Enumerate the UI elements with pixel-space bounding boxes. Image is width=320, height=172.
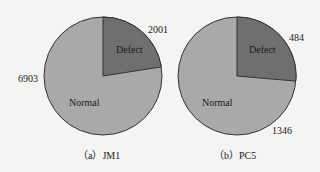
pc5-caption: （b）PC5: [214, 151, 256, 161]
jm1-defect-label: Defect: [116, 45, 143, 55]
pc5-normal-value: 1346: [272, 126, 292, 136]
pc5-normal-label: Normal: [202, 98, 233, 108]
pie-jm1: [44, 17, 162, 135]
jm1-caption: （a）JM1: [78, 151, 120, 161]
jm1-defect-value: 2001: [148, 25, 168, 35]
jm1-normal-value: 6903: [18, 74, 38, 84]
pc5-defect-label: Defect: [249, 45, 276, 55]
jm1-normal-label: Normal: [69, 98, 100, 108]
pie-pc5: [178, 17, 296, 135]
pc5-defect-value: 484: [289, 33, 304, 43]
